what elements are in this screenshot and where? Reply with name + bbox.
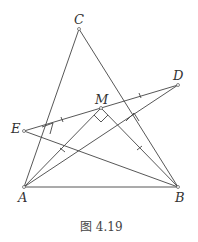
label-M: M bbox=[94, 92, 109, 107]
label-C: C bbox=[74, 12, 84, 27]
label-A: A bbox=[17, 190, 27, 205]
right-angle-M bbox=[94, 115, 108, 122]
geometry-figure: C D M E A B 图 4.19 bbox=[0, 0, 198, 242]
label-E: E bbox=[10, 121, 21, 136]
segment-AC bbox=[24, 29, 79, 187]
label-D: D bbox=[172, 68, 184, 83]
label-B: B bbox=[174, 190, 185, 205]
right-angle-D bbox=[126, 113, 139, 121]
point-D bbox=[177, 84, 180, 87]
point-A bbox=[23, 186, 26, 189]
figure-caption: 图 4.19 bbox=[80, 220, 123, 234]
point-B bbox=[177, 186, 180, 189]
segment-EB bbox=[24, 131, 178, 187]
tick-MD bbox=[139, 93, 141, 98]
point-C bbox=[78, 28, 81, 31]
point-E bbox=[23, 130, 26, 133]
tick-AM bbox=[60, 148, 65, 152]
right-angle-E bbox=[42, 123, 53, 134]
segment-BC bbox=[79, 29, 178, 187]
